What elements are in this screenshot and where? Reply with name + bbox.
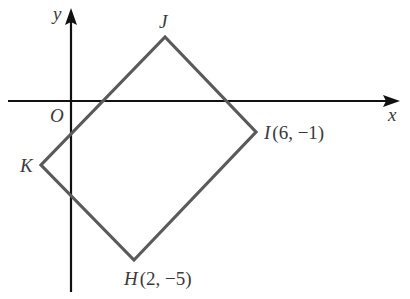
y-axis xyxy=(65,8,77,292)
vertex-h-coords: (2, −5) xyxy=(140,268,192,290)
vertex-label-h: H(2, −5) xyxy=(123,268,192,290)
vertex-label-i: I(6, −1) xyxy=(263,122,324,144)
origin-label: O xyxy=(50,105,64,126)
vertex-h-name: H xyxy=(123,268,139,289)
coordinate-diagram: y x O J K I(6, −1) H(2, −5) xyxy=(0,0,410,299)
vertex-i-coords: (6, −1) xyxy=(272,122,324,144)
x-axis xyxy=(8,95,400,107)
vertex-label-k: K xyxy=(19,155,34,176)
quadrilateral-hijk xyxy=(41,37,256,260)
vertex-i-name: I xyxy=(263,122,272,143)
vertex-label-j: J xyxy=(159,11,169,32)
x-axis-label: x xyxy=(387,104,397,125)
y-axis-label: y xyxy=(51,3,62,24)
